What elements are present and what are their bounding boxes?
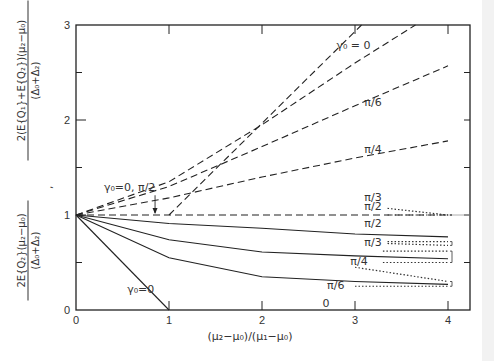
y-label-lower-denominator: (Δ₀+Δ₂) xyxy=(29,201,41,301)
annotation-label: 0 xyxy=(322,297,329,310)
annotation-label: π/6 xyxy=(327,279,344,292)
y-tick-label: 0 xyxy=(64,304,70,316)
x-tick-label: 1 xyxy=(166,314,172,326)
x-tick-label: 2 xyxy=(259,314,265,326)
bracket xyxy=(450,242,452,246)
y-label-lower-numerator: 2E{Q₂}(μ₂−μ₀) xyxy=(16,201,29,301)
y-axis-label-lower: 2E{Q₂}(μ₂−μ₀) (Δ₀+Δ₂) xyxy=(16,201,41,301)
y-label-upper-denominator: (Δ₀+Δ₂) xyxy=(29,1,41,161)
dotted-bound xyxy=(355,267,448,281)
x-tick-label: 0 xyxy=(73,314,79,326)
annotation-label: γ₀ = 0 xyxy=(336,39,370,52)
series-line xyxy=(76,141,448,215)
arrow-head xyxy=(153,208,158,214)
y-tick-label: 1 xyxy=(64,209,70,221)
annotation-label: π/2 xyxy=(364,200,381,213)
chart-plot: 012340123γ₀ = 0π/6π/4π/3π/2π/2π/3π/4π/6γ… xyxy=(0,0,494,361)
bracket xyxy=(450,251,452,262)
dotted-bound xyxy=(388,244,448,246)
annotation-label: γ₀=0 xyxy=(127,283,154,296)
x-tick-label: 4 xyxy=(445,314,451,326)
annotation-label: π/4 xyxy=(350,255,367,268)
bracket xyxy=(450,282,452,287)
y-axis-label-separator: , xyxy=(43,178,54,198)
x-tick-label: 3 xyxy=(352,314,358,326)
series-line xyxy=(76,215,448,259)
series-line xyxy=(76,215,169,310)
plot-frame xyxy=(76,25,470,310)
y-tick-label: 2 xyxy=(64,114,70,126)
y-tick-label: 3 xyxy=(64,19,70,31)
dotted-bound xyxy=(388,208,448,215)
y-axis-label-upper: 2(E{Q₁}+E{Q₂})(μ₂−μ₀) (Δ₀+Δ₂) xyxy=(16,1,41,161)
annotation-label: π/6 xyxy=(364,96,381,109)
series-line xyxy=(76,215,448,237)
annotation-label: π/3 xyxy=(364,236,381,249)
annotation-label: π/2 xyxy=(364,217,381,230)
x-axis-label: (μ₂−μ₀)/(μ₁−μ₀) xyxy=(208,330,293,343)
annotation-label: γ₀=0, π/2 xyxy=(104,181,155,194)
series-line xyxy=(76,215,448,284)
series-line xyxy=(169,25,362,215)
annotation-label: π/4 xyxy=(364,143,381,156)
y-label-upper-numerator: 2(E{Q₁}+E{Q₂})(μ₂−μ₀) xyxy=(16,1,29,161)
